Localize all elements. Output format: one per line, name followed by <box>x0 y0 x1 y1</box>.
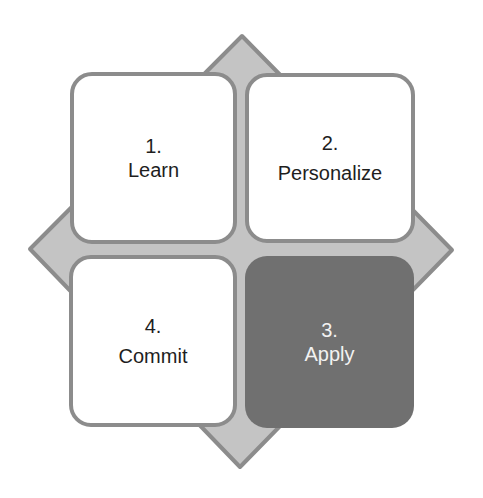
step-label: Commit <box>119 344 188 368</box>
step-box-apply: 3. Apply <box>245 256 414 428</box>
step-box-learn: 1. Learn <box>70 72 237 244</box>
diamond-backdrop <box>0 0 483 498</box>
step-number: 1. <box>145 134 162 158</box>
step-label: Learn <box>128 158 179 182</box>
step-number: 2. <box>322 131 339 155</box>
step-label: Personalize <box>278 161 383 185</box>
step-number: 3. <box>321 318 338 342</box>
step-box-commit: 4. Commit <box>69 255 237 427</box>
step-number: 4. <box>145 314 162 338</box>
step-box-personalize: 2. Personalize <box>245 73 415 243</box>
step-label: Apply <box>304 342 354 366</box>
four-step-cycle-diagram: 1. Learn 2. Personalize 3. Apply 4. Comm… <box>0 0 483 498</box>
